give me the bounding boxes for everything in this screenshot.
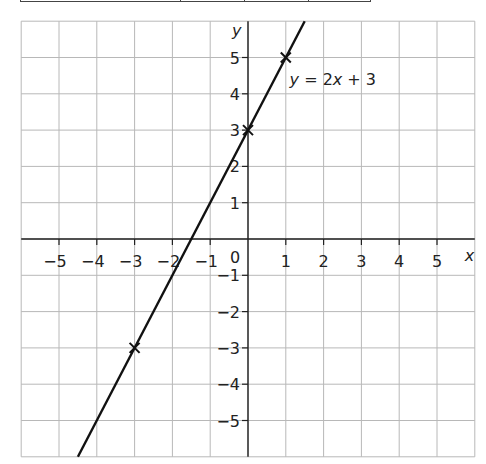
axes <box>21 21 475 457</box>
x-tick-label: −3 <box>119 252 143 271</box>
y-tick-label: 3 <box>230 121 240 140</box>
line-graph: −5−4−3−2−112345−5−4−3−2−112345 x y 0 y =… <box>0 0 486 464</box>
y-tick-label: −3 <box>216 339 240 358</box>
x-tick-label: 1 <box>281 252 291 271</box>
y-axis-label: y <box>231 21 242 40</box>
origin-label: 0 <box>230 248 240 267</box>
y-tick-label: −1 <box>216 266 240 285</box>
x-tick-label: 3 <box>356 252 366 271</box>
x-tick-label: 5 <box>432 252 442 271</box>
x-axis-label: x <box>464 246 475 265</box>
equation-label: y = 2x + 3 <box>289 70 376 89</box>
x-tick-label: −4 <box>81 252 105 271</box>
y-tick-label: 5 <box>230 49 240 68</box>
y-tick-label: −5 <box>216 412 240 431</box>
x-tick-label: 2 <box>319 252 329 271</box>
y-tick-label: 4 <box>230 85 240 104</box>
y-tick-label: −4 <box>216 375 240 394</box>
y-tick-label: 1 <box>230 194 240 213</box>
x-tick-label: 4 <box>394 252 404 271</box>
x-tick-label: −1 <box>194 252 218 271</box>
y-tick-label: −2 <box>216 303 240 322</box>
x-tick-label: −5 <box>43 252 67 271</box>
